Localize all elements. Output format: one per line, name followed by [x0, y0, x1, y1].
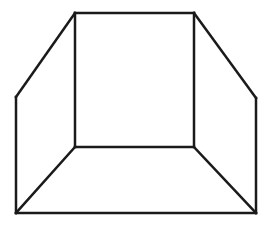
- edge-group: [16, 13, 256, 213]
- open-box-perspective-drawing: [0, 0, 269, 229]
- right-floor-edge: [194, 147, 256, 213]
- left-floor-edge: [16, 147, 75, 213]
- diagram-canvas: [0, 0, 269, 229]
- left-wall-top-edge: [16, 13, 75, 97]
- right-wall-top-edge: [194, 13, 256, 98]
